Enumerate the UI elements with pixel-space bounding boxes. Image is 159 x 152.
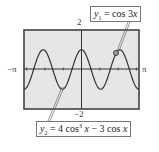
legend-y2-rhs3: − 3 cos <box>89 123 123 134</box>
legend-y1-x: x <box>133 8 137 19</box>
legend-y1: y1 = cos 3x <box>90 6 141 22</box>
y-max-label: 2 <box>77 18 82 27</box>
x-max-label: π <box>142 65 147 74</box>
legend-y2: y2 = 4 cos3 x − 3 cos x <box>36 121 131 137</box>
intersection-marker <box>113 50 118 55</box>
y-min-label: −2 <box>74 110 84 119</box>
legend-y1-rhs: = cos 3 <box>101 8 132 19</box>
legend-y2-x2: x <box>123 123 127 134</box>
x-min-label: −π <box>7 65 17 74</box>
legend-y2-rhs1: = 4 cos <box>47 123 78 134</box>
